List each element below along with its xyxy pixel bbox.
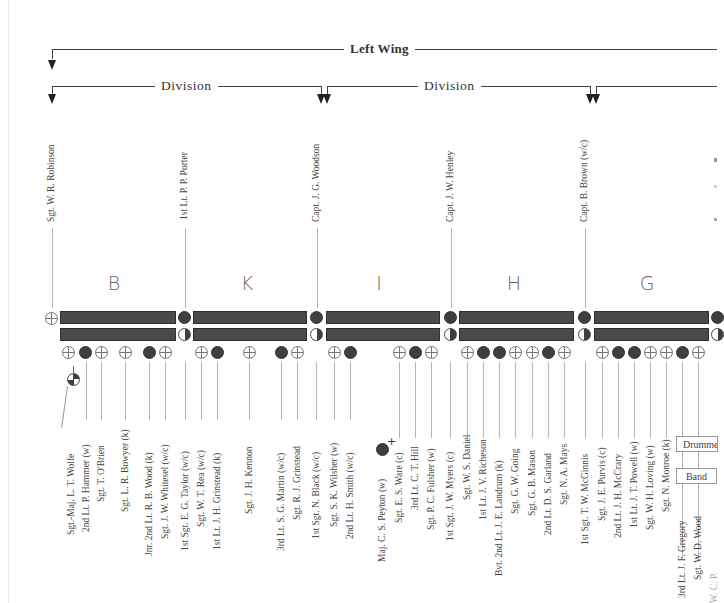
soldier-name: Sgt. W. T. Rea (w/c) xyxy=(196,450,207,527)
edge-mark xyxy=(714,185,717,188)
officer-label: Sgt. W. R. Robinson xyxy=(46,144,57,222)
officer-symbol-icon xyxy=(409,346,422,359)
company-letter-h: H xyxy=(499,272,529,294)
officer-stem xyxy=(52,228,53,308)
wing-label: Left Wing xyxy=(344,42,415,56)
company-letter-b: B xyxy=(99,272,129,294)
name-stem xyxy=(350,362,351,420)
soldier-name: Sgt. T. O'Brien xyxy=(96,445,107,502)
division-bracket-line xyxy=(596,86,717,87)
officer-symbol-icon xyxy=(143,346,156,359)
officer-symbol-icon xyxy=(578,311,591,324)
sergeant-symbol-icon xyxy=(425,346,438,359)
company-letter-k: K xyxy=(232,272,262,294)
soldier-name: Sgt. J. E. Purvis (c) xyxy=(597,447,608,521)
officer-symbol-icon xyxy=(612,346,625,359)
name-stem xyxy=(618,362,619,438)
name-stem xyxy=(334,362,335,420)
soldier-name: Sgt. L. R. Bowyer (k) xyxy=(120,429,131,512)
name-stem xyxy=(201,362,202,420)
sergeant-symbol-icon xyxy=(393,346,406,359)
soldier-name: Sgt. J. H. Kennon xyxy=(244,446,255,514)
company-letter-g: G xyxy=(632,272,662,294)
soldier-name: W. C. P. xyxy=(709,572,720,603)
company-k-rear-rank xyxy=(193,328,307,341)
officer-symbol-icon xyxy=(344,346,357,359)
sergeant-symbol-icon xyxy=(328,346,341,359)
sergeant-symbol-icon xyxy=(558,346,571,359)
sergeant-symbol-icon xyxy=(509,346,522,359)
name-stem xyxy=(281,362,282,420)
company-b-rear-rank xyxy=(60,328,176,341)
name-stem xyxy=(101,362,102,420)
name-stem xyxy=(185,362,186,420)
name-stem xyxy=(399,362,400,438)
file-closer-symbol-icon xyxy=(444,328,457,341)
officer-symbol-icon xyxy=(477,346,490,359)
sergeant-symbol-icon xyxy=(644,346,657,359)
soldier-name: Sgt. G. B. Mason xyxy=(527,450,538,516)
name-stem xyxy=(149,362,150,420)
sergeant-symbol-icon xyxy=(119,346,132,359)
wing-bracket-drop xyxy=(52,49,53,59)
soldier-name: 1st Sgt. J. W. Myers (c) xyxy=(445,452,456,541)
drummers-label: Drummers xyxy=(676,436,718,452)
soldier-name: Bvt. 2nd Lt. J. E. Landrum (k) xyxy=(494,460,505,576)
file-closer-symbol-icon xyxy=(578,328,591,341)
officer-symbol-icon xyxy=(542,346,555,359)
officer-symbol-icon xyxy=(711,311,724,324)
company-g-front-rank xyxy=(594,311,709,324)
soldier-name: Jnr. 2nd Lt. R. B. Wood (k) xyxy=(144,452,155,556)
officer-symbol-icon xyxy=(628,346,641,359)
division-label-2: Division xyxy=(418,79,481,93)
file-closer-symbol-icon xyxy=(178,328,191,341)
name-stem xyxy=(467,362,468,438)
officer-symbol-icon xyxy=(79,346,92,359)
officer-symbol-icon xyxy=(211,346,224,359)
soldier-name: Sgt. E. S. Ware (c) xyxy=(394,452,405,523)
division-bracket-drop xyxy=(590,86,591,94)
soldier-name: 2nd Lt. J. H. McCrary xyxy=(613,454,624,538)
soldier-name: 1st Lt. J. T. Powell (w) xyxy=(629,441,640,528)
soldier-name: 2nd Lt. H. Smith (w/c) xyxy=(345,452,356,539)
name-stem xyxy=(483,362,484,438)
division-bracket-drop xyxy=(321,86,322,94)
sergeant-symbol-icon xyxy=(692,346,705,359)
soldier-name: 2nd Lt. P. Hammer (w) xyxy=(81,444,92,532)
soldier-name: 1st Sgt. E. G. Taylor (w/c) xyxy=(180,451,191,551)
name-stem xyxy=(602,362,603,438)
company-i-front-rank xyxy=(326,311,440,324)
name-stem xyxy=(450,362,451,438)
division-bracket-drop xyxy=(327,86,328,94)
name-stem xyxy=(650,362,651,438)
soldier-name: 1st Lt. J. H. Grinstead (k) xyxy=(212,453,223,550)
soldier-name: Sgt. W. S. Daniel xyxy=(462,435,473,500)
soldier-name: Sgt. W. D. Wood xyxy=(693,516,704,580)
name-stem xyxy=(316,362,317,420)
officer-symbol-icon xyxy=(275,346,288,359)
name-stem xyxy=(634,362,635,438)
officer-stem xyxy=(451,228,452,308)
soldier-name: 3rd Lt. S. G. Martin (w/c) xyxy=(276,453,287,551)
name-stem xyxy=(86,362,87,420)
edge-mark xyxy=(714,158,717,162)
sergeant-major-tick xyxy=(73,366,74,373)
band-label: Band xyxy=(676,468,717,484)
file-closer-symbol-icon xyxy=(711,328,724,341)
division-bracket-drop xyxy=(52,86,53,94)
officer-stem xyxy=(317,228,318,308)
company-h-rear-rank xyxy=(459,328,574,341)
sergeant-major-leader xyxy=(61,386,68,428)
officer-label: Capt. J. W. Henley xyxy=(445,151,456,222)
division-label-1: Division xyxy=(155,79,218,93)
arrow-down-icon xyxy=(323,94,331,104)
company-h-front-rank xyxy=(459,311,574,324)
arrow-down-icon xyxy=(48,94,56,104)
soldier-name: Maj. C. S. Peyton (w) xyxy=(377,479,388,562)
name-stem xyxy=(217,362,218,420)
officer-stem xyxy=(585,228,586,308)
name-stem xyxy=(297,362,298,420)
officer-symbol-icon xyxy=(178,311,191,324)
soldier-name: Sgt. J. W. Whitesel (w/c) xyxy=(160,444,171,539)
